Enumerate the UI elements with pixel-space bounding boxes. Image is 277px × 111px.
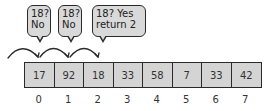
bubble-tail <box>67 36 75 43</box>
array-cell: 7 <box>173 63 203 87</box>
bubble-question: 18? <box>62 8 78 19</box>
bubble-tail <box>99 36 107 43</box>
bubble-tail <box>36 36 44 43</box>
index-label: 3 <box>113 94 143 105</box>
array-cell: 92 <box>55 63 85 87</box>
array-cell: 33 <box>202 63 232 87</box>
speech-bubble-index-1: 18? No <box>58 5 82 37</box>
index-label: 2 <box>83 94 113 105</box>
speech-bubble-index-2: 18? Yes return 2 <box>92 5 146 37</box>
bubble-question: 18? <box>31 8 47 19</box>
array-cell: 58 <box>143 63 173 87</box>
array: 17 92 18 33 58 7 33 42 <box>24 62 262 88</box>
index-label: 6 <box>201 94 231 105</box>
array-cell: 42 <box>232 63 262 87</box>
bubble-question: 18? Yes <box>96 8 142 19</box>
bubble-answer: No <box>62 19 78 30</box>
index-label: 0 <box>24 94 54 105</box>
array-cell: 18 <box>84 63 114 87</box>
index-label: 4 <box>142 94 172 105</box>
array-cell: 17 <box>25 63 55 87</box>
bubble-answer: return 2 <box>96 19 142 30</box>
arrow-1-to-2 <box>70 49 98 58</box>
arrow-0-to-1 <box>40 49 68 58</box>
index-label: 1 <box>54 94 84 105</box>
array-cell: 33 <box>114 63 144 87</box>
bubble-answer: No <box>31 19 47 30</box>
index-label: 5 <box>172 94 202 105</box>
speech-bubble-index-0: 18? No <box>27 5 51 37</box>
arrow-start-to-0 <box>8 49 38 58</box>
array-indices: 0 1 2 3 4 5 6 7 <box>24 94 260 105</box>
index-label: 7 <box>231 94 261 105</box>
